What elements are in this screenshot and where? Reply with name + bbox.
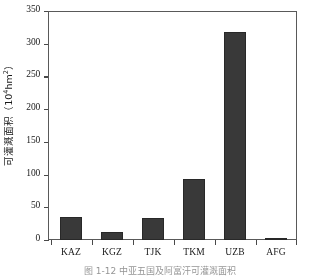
y-tick-label: 0 bbox=[35, 233, 40, 243]
bar-TKM bbox=[183, 179, 205, 240]
x-axis-label-KAZ: KAZ bbox=[50, 247, 92, 257]
bar-KGZ bbox=[101, 232, 123, 240]
x-tick-mark-4 bbox=[215, 240, 216, 245]
x-tick-mark-2 bbox=[133, 240, 134, 245]
y-tick-label: 200 bbox=[26, 102, 40, 112]
y-tick-label: 350 bbox=[26, 4, 40, 14]
bar-TJK bbox=[142, 218, 164, 240]
x-axis-label-UZB: UZB bbox=[214, 247, 256, 257]
y-axis-title-exponent: 4 bbox=[2, 90, 10, 94]
y-axis-title-unit: hm bbox=[3, 74, 14, 89]
y-tick-label: 250 bbox=[26, 69, 40, 79]
y-tick-label: 50 bbox=[31, 200, 40, 210]
y-tick-label: 300 bbox=[26, 37, 40, 47]
bar-UZB bbox=[224, 32, 246, 240]
y-axis-title-unit-exponent: 2 bbox=[2, 70, 10, 74]
y-tick-mark bbox=[44, 240, 49, 241]
y-axis-title: 可灌溉面积（104hm2） bbox=[1, 13, 15, 213]
x-axis-label-AFG: AFG bbox=[255, 247, 297, 257]
y-tick-label: 150 bbox=[26, 135, 40, 145]
figure-container: 可灌溉面积（104hm2） 350 300 250 200 150 100 50… bbox=[0, 0, 320, 276]
x-axis-label-KGZ: KGZ bbox=[91, 247, 133, 257]
figure-caption: 图 1-12 中亚五国及阿富汗可灌溉面积 bbox=[0, 264, 320, 276]
y-tick-label: 100 bbox=[26, 168, 40, 178]
bar-KAZ bbox=[60, 217, 82, 240]
bar-AFG bbox=[265, 238, 287, 240]
x-axis-label-TJK: TJK bbox=[132, 247, 174, 257]
x-tick-mark-3 bbox=[174, 240, 175, 245]
x-tick-mark-6 bbox=[296, 240, 297, 245]
y-axis-title-text: 可灌溉面积（10 bbox=[3, 94, 14, 166]
x-tick-mark-0 bbox=[51, 240, 52, 245]
y-axis-title-close: ） bbox=[3, 60, 14, 70]
x-axis-label-TKM: TKM bbox=[173, 247, 215, 257]
x-tick-mark-5 bbox=[256, 240, 257, 245]
x-tick-mark-1 bbox=[92, 240, 93, 245]
plot-area bbox=[48, 11, 297, 240]
